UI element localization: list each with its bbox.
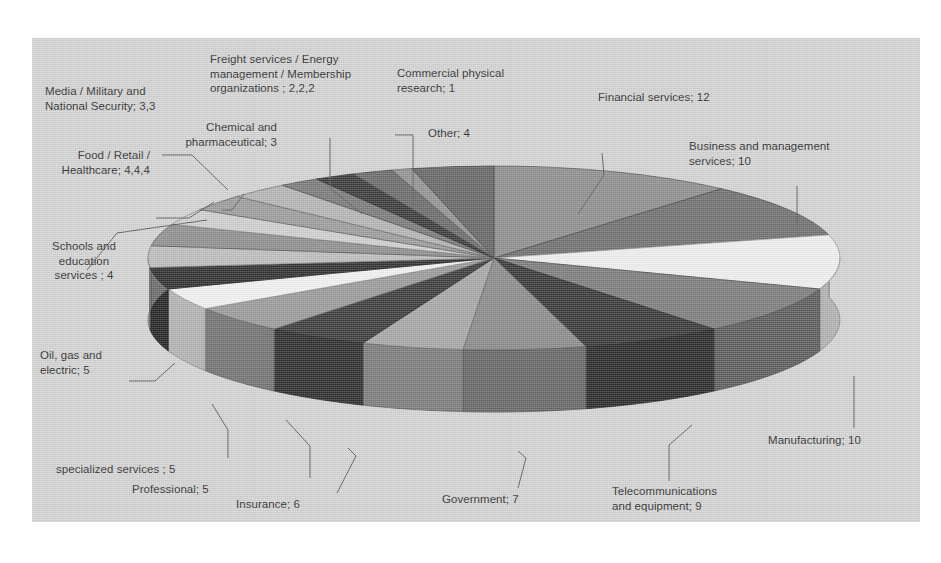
telecom-label: Telecommunications and equipment; 9 xyxy=(612,484,787,513)
financial-services-label: Financial services; 12 xyxy=(598,90,768,105)
professional-label: Professional; 5 xyxy=(132,482,282,497)
specialized-services-label: specialized services ; 5 xyxy=(56,462,256,477)
chemical-pharma-label: Chemical and pharmaceutical; 3 xyxy=(142,120,277,149)
screenshot-root: Media / Military and National Security; … xyxy=(0,0,941,563)
pie-top-face xyxy=(148,166,840,350)
media-military-label: Media / Military and National Security; … xyxy=(45,84,230,113)
government-label: Government; 7 xyxy=(442,492,592,507)
schools-education-label: Schools and education services ; 4 xyxy=(32,239,136,283)
pie-slice-side-6 xyxy=(363,343,463,412)
pie-slice-side-5 xyxy=(463,347,586,412)
insurance-label: Insurance; 6 xyxy=(236,497,366,512)
other-label: Other; 4 xyxy=(428,126,518,141)
freight-energy-label: Freight services / Energy management / M… xyxy=(210,52,410,96)
chart-plot-area: Media / Military and National Security; … xyxy=(32,38,920,522)
oil-gas-electric-label: Oil, gas and electric; 5 xyxy=(40,348,150,377)
food-retail-health-label: Food / Retail / Healthcare; 4,4,4 xyxy=(32,148,150,177)
commercial-research-label: Commercial physical research; 1 xyxy=(397,66,567,95)
manufacturing-label: Manufacturing; 10 xyxy=(768,433,918,448)
business-management-label: Business and management services; 10 xyxy=(689,139,905,168)
